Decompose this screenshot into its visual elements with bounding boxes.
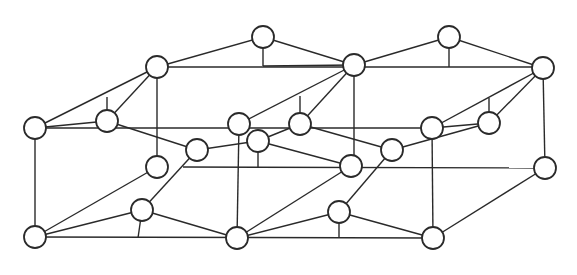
edge-line: [142, 210, 237, 238]
node-circle-n10: [289, 113, 311, 135]
node-circle-n4: [252, 26, 274, 48]
edge-line: [35, 210, 142, 237]
node-circle-n2: [96, 110, 118, 132]
node-circle-n5: [343, 54, 365, 76]
edge-line: [263, 37, 354, 65]
edge-line: [263, 65, 354, 66]
node-circle-n18: [340, 155, 362, 177]
node-circle-n16: [24, 226, 46, 248]
edge-line: [107, 121, 197, 150]
edge-line: [432, 128, 433, 238]
node-circle-n22: [534, 157, 556, 179]
node-circle-n12: [478, 112, 500, 134]
edge-line: [339, 212, 433, 238]
node-circle-n21: [422, 227, 444, 249]
edge-line: [433, 168, 545, 238]
node-circle-n15: [131, 199, 153, 221]
edge-line: [543, 68, 545, 168]
lattice-network-diagram: [0, 0, 577, 275]
node-circle-n19: [381, 139, 403, 161]
edge-line: [237, 212, 339, 238]
edge-line: [300, 65, 354, 124]
node-circle-n7: [532, 57, 554, 79]
edge-line: [237, 124, 239, 238]
node-circle-n1: [24, 117, 46, 139]
edge-line: [354, 37, 449, 65]
node-circle-n17: [226, 227, 248, 249]
node-circle-n6: [438, 26, 460, 48]
node-circle-n14: [186, 139, 208, 161]
edge-line: [258, 141, 351, 166]
node-circle-n8: [228, 113, 250, 135]
edge-line: [157, 37, 263, 67]
node-layer: [24, 26, 556, 249]
edge-line: [449, 37, 543, 68]
edge-line: [183, 167, 545, 168]
node-circle-n20: [328, 201, 350, 223]
edge-layer: [35, 37, 545, 238]
node-circle-n9: [247, 130, 269, 152]
node-circle-n3: [146, 56, 168, 78]
node-circle-n13: [146, 156, 168, 178]
node-circle-n11: [421, 117, 443, 139]
